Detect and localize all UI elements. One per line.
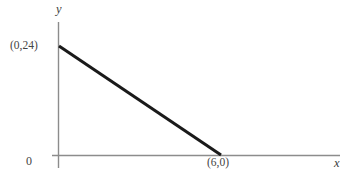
data-line-segment — [59, 46, 221, 155]
y-axis-label: y — [56, 3, 62, 16]
x-axis-label: x — [334, 157, 340, 170]
origin-label: 0 — [26, 155, 32, 167]
plot-area — [0, 0, 351, 182]
y-intercept-label: (0,24) — [10, 40, 38, 52]
graph-figure: (0,24) (6,0) 0 y x — [0, 0, 351, 182]
x-intercept-label: (6,0) — [207, 157, 229, 169]
